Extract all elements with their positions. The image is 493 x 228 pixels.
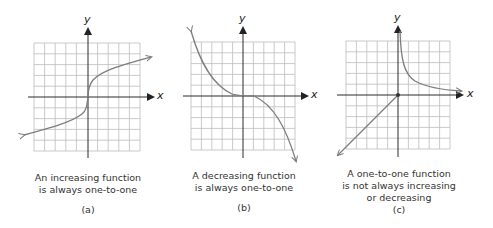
panel-b-x-label: x bbox=[311, 88, 318, 101]
panel-b-caption-line-1: A decreasing function bbox=[192, 170, 295, 182]
panel-c-caption-line-1: A one-to-one function bbox=[342, 168, 456, 180]
panel-b-y-label: y bbox=[239, 12, 246, 25]
panel-c-caption: A one-to-one function is not always incr… bbox=[342, 168, 456, 216]
panel-c-linear-branch bbox=[338, 95, 398, 155]
panel-a-caption-line-2: is always one-to-one bbox=[35, 184, 141, 196]
panel-a-caption-line-1: An increasing function bbox=[35, 172, 141, 184]
panel-c-x-label: x bbox=[467, 87, 474, 100]
panel-a-tag: (a) bbox=[35, 204, 141, 216]
panel-b-caption: A decreasing function is always one-to-o… bbox=[192, 170, 295, 214]
panel-c-endpoint-dot bbox=[396, 93, 400, 97]
panel-c-hyperbola-branch bbox=[400, 31, 461, 91]
panel-b-tag: (b) bbox=[192, 202, 295, 214]
panel-c-caption-line-3: or decreasing bbox=[342, 192, 456, 204]
panel-b-caption-line-2: is always one-to-one bbox=[192, 182, 295, 194]
panel-b-graph bbox=[183, 28, 307, 161]
panel-c-y-label: y bbox=[394, 11, 401, 24]
panel-a-x-label: x bbox=[157, 89, 164, 102]
panel-c-caption-line-2: is not always increasing bbox=[342, 180, 456, 192]
panel-a-caption: An increasing function is always one-to-… bbox=[35, 172, 141, 216]
panel-a-y-label: y bbox=[84, 13, 91, 26]
panel-c-tag: (c) bbox=[342, 204, 456, 216]
panel-c-graph bbox=[337, 27, 462, 157]
panel-a-graph bbox=[24, 29, 153, 158]
